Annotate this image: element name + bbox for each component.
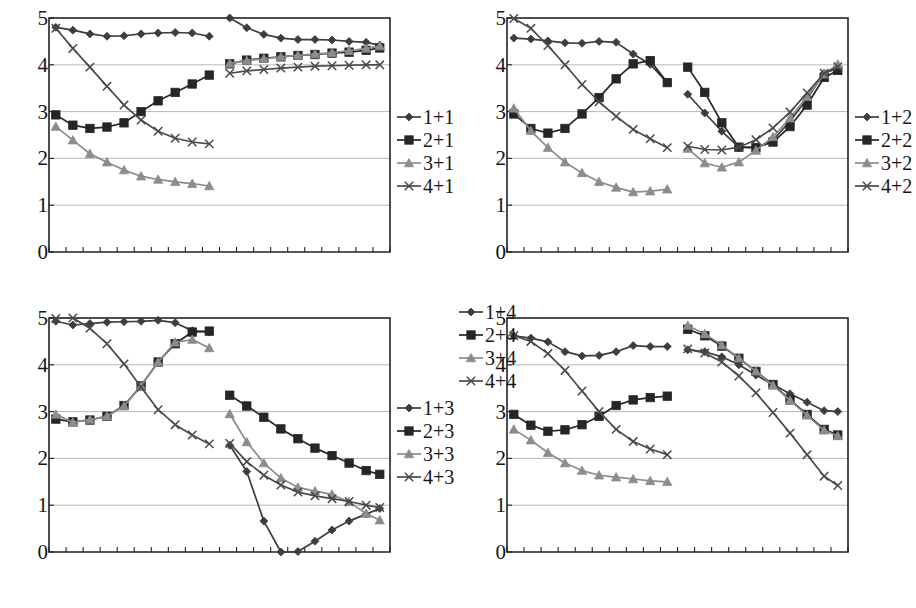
legend-label: 1+1: [423, 107, 454, 127]
legend-item-2-plus-2[interactable]: 2+2: [854, 128, 916, 151]
y-tick-label: 1: [38, 195, 49, 216]
y-axis-labels-bottom-left: 012345: [28, 308, 48, 566]
y-tick-label: 1: [38, 495, 49, 516]
legend-label: 3+2: [881, 153, 912, 173]
y-tick-label: 3: [38, 101, 49, 122]
cross-marker: [854, 177, 880, 195]
chart-panel-top-right: 012345 1+22+23+24+2: [458, 0, 916, 304]
square-marker: [458, 326, 484, 344]
legend-item-4-plus-4[interactable]: 4+4: [458, 369, 544, 392]
y-tick-label: 2: [38, 448, 49, 469]
y-tick-label: 0: [38, 542, 49, 563]
plot-area-bottom-left: 012345: [28, 308, 392, 566]
diamond-marker: [458, 303, 484, 321]
y-axis-labels-top-right: 012345: [486, 8, 506, 266]
legend-label: 1+3: [423, 398, 454, 418]
chart-panel-top-left: 012345 1+12+13+14+1: [0, 0, 458, 304]
y-tick-label: 2: [496, 448, 507, 469]
legend-bottom-right: 1+42+43+44+4: [458, 300, 544, 392]
triangle-marker: [458, 349, 484, 367]
legend-item-2-plus-4[interactable]: 2+4: [458, 323, 544, 346]
y-tick-label: 0: [496, 542, 507, 563]
triangle-marker: [854, 154, 880, 172]
legend-label: 4+1: [423, 176, 454, 196]
plot-area-top-right: 012345: [486, 8, 850, 266]
y-tick-label: 1: [496, 195, 507, 216]
y-tick-label: 3: [496, 401, 507, 422]
square-marker: [396, 422, 422, 440]
legend-label: 2+4: [485, 325, 516, 345]
legend-label: 3+4: [485, 348, 516, 368]
diamond-marker: [854, 108, 880, 126]
legend-label: 3+1: [423, 153, 454, 173]
legend-top-right: 1+22+23+24+2: [854, 105, 916, 197]
legend-item-1-plus-4[interactable]: 1+4: [458, 300, 544, 323]
legend-label: 2+1: [423, 130, 454, 150]
legend-label: 4+2: [881, 176, 912, 196]
diamond-marker: [396, 399, 422, 417]
legend-label: 2+3: [423, 421, 454, 441]
legend-label: 3+3: [423, 444, 454, 464]
y-tick-label: 4: [38, 354, 49, 375]
y-tick-label: 2: [496, 148, 507, 169]
plot-svg-bottom-right: [506, 308, 850, 566]
cross-marker: [396, 468, 422, 486]
legend-item-4-plus-2[interactable]: 4+2: [854, 174, 916, 197]
legend-label: 4+3: [423, 467, 454, 487]
legend-item-3-plus-4[interactable]: 3+4: [458, 346, 544, 369]
chart-panel-bottom-right: 012345 1+42+43+44+4: [458, 300, 916, 604]
y-tick-label: 0: [496, 242, 507, 263]
multi-panel-line-chart-figure: 012345 1+12+13+14+1 012345 1+22+23+24+2 …: [0, 0, 916, 608]
plot-svg-top-left: [48, 8, 392, 266]
triangle-marker: [396, 154, 422, 172]
y-tick-label: 4: [496, 54, 507, 75]
legend-label: 4+4: [485, 371, 516, 391]
legend-item-1-plus-2[interactable]: 1+2: [854, 105, 916, 128]
diamond-marker: [396, 108, 422, 126]
legend-label: 1+4: [485, 302, 516, 322]
y-tick-label: 5: [38, 8, 49, 29]
plot-area-top-left: 012345: [28, 8, 392, 266]
plot-svg-top-right: [506, 8, 850, 266]
y-tick-label: 5: [496, 8, 507, 29]
chart-panel-bottom-left: 012345 1+32+33+34+3: [0, 300, 458, 604]
legend-label: 1+2: [881, 107, 912, 127]
y-tick-label: 5: [38, 308, 49, 329]
triangle-marker: [396, 445, 422, 463]
square-marker: [854, 131, 880, 149]
square-marker: [396, 131, 422, 149]
plot-svg-bottom-left: [48, 308, 392, 566]
legend-item-3-plus-2[interactable]: 3+2: [854, 151, 916, 174]
cross-marker: [458, 372, 484, 390]
y-tick-label: 3: [38, 401, 49, 422]
legend-label: 2+2: [881, 130, 912, 150]
cross-marker: [396, 177, 422, 195]
y-tick-label: 3: [496, 101, 507, 122]
y-tick-label: 0: [38, 242, 49, 263]
y-tick-label: 4: [38, 54, 49, 75]
y-tick-label: 2: [38, 148, 49, 169]
y-tick-label: 1: [496, 495, 507, 516]
y-axis-labels-top-left: 012345: [28, 8, 48, 266]
